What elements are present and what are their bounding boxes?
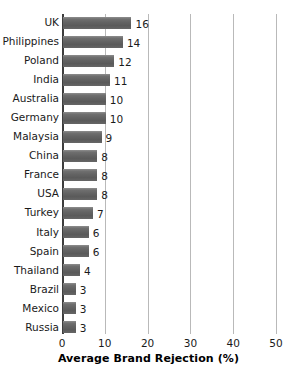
- bar-wrapper: 6: [63, 226, 89, 238]
- bar-wrapper: 6: [63, 245, 89, 257]
- category-label: Malaysia: [0, 130, 59, 142]
- bar-wrapper: 3: [63, 283, 76, 295]
- bar-row[interactable]: UK16: [0, 14, 297, 33]
- category-label: UK: [0, 16, 59, 28]
- bar-row[interactable]: China8: [0, 147, 297, 166]
- bar-row[interactable]: Malaysia9: [0, 128, 297, 147]
- category-label: Russia: [0, 321, 59, 333]
- bar[interactable]: [63, 74, 110, 86]
- category-label: Germany: [0, 111, 59, 123]
- bar-value-label: 3: [80, 284, 87, 296]
- bar-wrapper: 8: [63, 169, 97, 181]
- x-tick-label-30: 30: [184, 337, 197, 349]
- x-tick-label-0: 0: [59, 337, 66, 349]
- bar[interactable]: [63, 188, 97, 200]
- bar-row[interactable]: Spain6: [0, 243, 297, 262]
- bar[interactable]: [63, 93, 106, 105]
- bar[interactable]: [63, 17, 131, 29]
- category-label: Brazil: [0, 283, 59, 295]
- bar-value-label: 7: [97, 208, 104, 220]
- bar-value-label: 3: [80, 322, 87, 334]
- category-label: Spain: [0, 245, 59, 257]
- category-label: India: [0, 73, 59, 85]
- bar-row[interactable]: Brazil3: [0, 281, 297, 300]
- bar-value-label: 16: [135, 18, 148, 30]
- bar-value-label: 8: [101, 170, 108, 182]
- bar-wrapper: 3: [63, 321, 76, 333]
- bar-value-label: 6: [93, 227, 100, 239]
- bar-row[interactable]: Germany10: [0, 109, 297, 128]
- bar-wrapper: 10: [63, 93, 106, 105]
- bar-row[interactable]: Italy6: [0, 224, 297, 243]
- bar-wrapper: 10: [63, 112, 106, 124]
- category-label: Poland: [0, 54, 59, 66]
- bar-value-label: 6: [93, 246, 100, 258]
- category-label: Australia: [0, 92, 59, 104]
- bar-value-label: 3: [80, 303, 87, 315]
- bar-wrapper: 8: [63, 188, 97, 200]
- category-label: France: [0, 168, 59, 180]
- bar-value-label: 12: [118, 56, 131, 68]
- bar-row[interactable]: Mexico3: [0, 300, 297, 319]
- bar[interactable]: [63, 150, 97, 162]
- bar-row[interactable]: France8: [0, 166, 297, 185]
- bar-wrapper: 3: [63, 302, 76, 314]
- bar-value-label: 8: [101, 151, 108, 163]
- bar[interactable]: [63, 226, 89, 238]
- bar-wrapper: 8: [63, 150, 97, 162]
- bar-chart: UK16Philippines14Poland12India11Australi…: [0, 0, 297, 373]
- x-tick-label-40: 40: [227, 337, 240, 349]
- bar-row[interactable]: Russia3: [0, 319, 297, 338]
- bar-value-label: 10: [110, 113, 123, 125]
- category-label: Philippines: [0, 35, 59, 47]
- category-label: Turkey: [0, 206, 59, 218]
- bar-row[interactable]: Poland12: [0, 52, 297, 71]
- bar[interactable]: [63, 207, 93, 219]
- bar[interactable]: [63, 169, 97, 181]
- bar[interactable]: [63, 283, 76, 295]
- bar-row[interactable]: USA8: [0, 185, 297, 204]
- bar-value-label: 11: [114, 75, 127, 87]
- x-axis-title: Average Brand Rejection (%): [0, 352, 297, 365]
- bar-rows: UK16Philippines14Poland12India11Australi…: [0, 14, 297, 338]
- bar-wrapper: 14: [63, 36, 123, 48]
- bar-value-label: 14: [127, 37, 140, 49]
- bar[interactable]: [63, 321, 76, 333]
- bar-value-label: 10: [110, 94, 123, 106]
- bar[interactable]: [63, 302, 76, 314]
- bar[interactable]: [63, 55, 114, 67]
- bar-wrapper: 16: [63, 17, 131, 29]
- bar-wrapper: 11: [63, 74, 110, 86]
- bar[interactable]: [63, 131, 102, 143]
- bar-wrapper: 12: [63, 55, 114, 67]
- bar-row[interactable]: India11: [0, 71, 297, 90]
- x-tick-label-10: 10: [98, 337, 111, 349]
- x-tick-label-20: 20: [141, 337, 154, 349]
- bar-wrapper: 7: [63, 207, 93, 219]
- bar-row[interactable]: Australia10: [0, 90, 297, 109]
- bar-row[interactable]: Philippines14: [0, 33, 297, 52]
- bar-wrapper: 4: [63, 264, 80, 276]
- category-label: China: [0, 149, 59, 161]
- bar-value-label: 4: [84, 265, 91, 277]
- bar[interactable]: [63, 264, 80, 276]
- category-label: Italy: [0, 226, 59, 238]
- bar[interactable]: [63, 36, 123, 48]
- bar-row[interactable]: Turkey7: [0, 204, 297, 223]
- bar-wrapper: 9: [63, 131, 102, 143]
- category-label: Mexico: [0, 302, 59, 314]
- category-label: USA: [0, 187, 59, 199]
- bar-value-label: 9: [106, 132, 113, 144]
- bar-value-label: 8: [101, 189, 108, 201]
- bar-row[interactable]: Thailand4: [0, 262, 297, 281]
- bar[interactable]: [63, 112, 106, 124]
- category-label: Thailand: [0, 264, 59, 276]
- x-tick-label-50: 50: [269, 337, 282, 349]
- bar[interactable]: [63, 245, 89, 257]
